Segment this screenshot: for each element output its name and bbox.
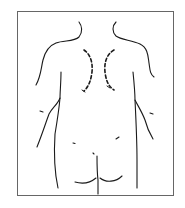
back-diagram-figure [0,0,185,208]
figure-frame [18,12,174,196]
sacral-mark [93,153,94,154]
left-dimple-mark [73,143,75,144]
